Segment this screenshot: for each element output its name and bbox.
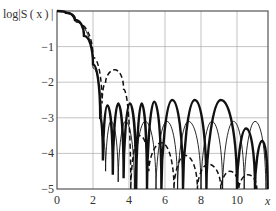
y-tick-label: −3 — [41, 111, 54, 125]
y-tick-label: −4 — [41, 146, 54, 160]
y-tick-label: −2 — [41, 75, 54, 89]
y-axis-label: log|S ( x ) | — [3, 7, 53, 21]
x-tick-label: 0 — [54, 193, 60, 207]
series-group — [57, 11, 268, 189]
x-tick-label: 4 — [126, 193, 132, 207]
y-tick-label: −1 — [41, 40, 54, 54]
x-axis-label: x — [264, 194, 271, 208]
x-tick-label: 8 — [198, 193, 204, 207]
chart: 0246810−1−2−3−4−5 log|S ( x ) | x — [0, 0, 276, 211]
x-tick-label: 2 — [90, 193, 96, 207]
y-tick-label: −5 — [41, 182, 54, 196]
x-tick-label: 10 — [231, 193, 243, 207]
x-tick-label: 6 — [162, 193, 168, 207]
